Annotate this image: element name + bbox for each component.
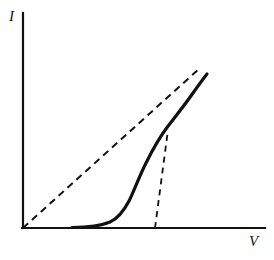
iv-characteristic-plot [0,0,274,260]
current-axis-label: I [9,9,14,24]
voltage-axis-label: V [249,234,258,249]
figure-container: I V [0,0,274,260]
device-characteristic-curve [72,74,207,228]
linear-reference-dashed-line [23,68,200,228]
